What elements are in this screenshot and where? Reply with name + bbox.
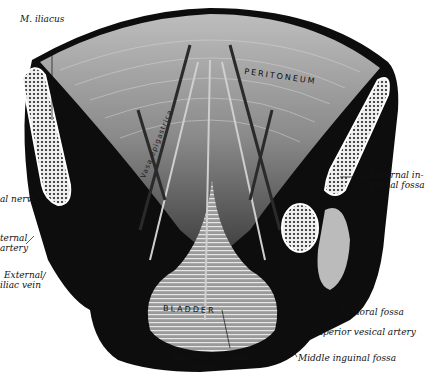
label-external-iliac-artery-2: artery bbox=[0, 243, 28, 253]
label-bladder: BLADDER bbox=[163, 304, 216, 315]
label-external-inguinal-fossa-1: External in- bbox=[370, 170, 424, 180]
label-external-iliac-vein-2: iliac vein bbox=[0, 280, 41, 290]
right-pubic-bone bbox=[282, 204, 318, 252]
label-middle-inguinal-fossa: Middle inguinal fossa bbox=[298, 353, 396, 363]
label-femoral-fossa: Femoral fossa bbox=[340, 307, 404, 317]
label-femoral-nerve: al nerve bbox=[0, 194, 37, 204]
label-internal-inguinal-fossa-2: fossa bbox=[192, 362, 215, 372]
label-external-inguinal-fossa-2: guinal fossa bbox=[370, 180, 425, 190]
label-superior-vesical-artery: Superior vesical artery bbox=[311, 327, 416, 337]
label-external-iliac-vein-1: External bbox=[4, 270, 43, 280]
label-internal-inguinal-fossa-1: Internal inguinal bbox=[172, 352, 249, 362]
anatomical-illustration bbox=[0, 0, 428, 379]
label-external-iliac-artery-1: ternal bbox=[0, 233, 27, 243]
label-m-iliacus: M. iliacus bbox=[20, 14, 64, 24]
